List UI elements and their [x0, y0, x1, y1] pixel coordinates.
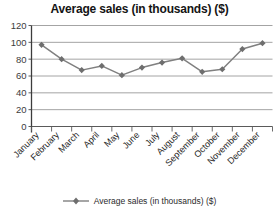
x-axis [32, 127, 273, 132]
x-tick-labels: JanuaryFebruaryMarchAprilMayJuneJulyAugu… [11, 129, 262, 168]
data-point-july [159, 59, 165, 65]
y-tick-label-80: 80 [16, 54, 27, 65]
data-point-may [119, 72, 125, 78]
y-tick-labels: 020406080100120 [11, 20, 27, 132]
line-chart-plot: 020406080100120 JanuaryFebruaryMarchApri… [0, 0, 279, 217]
data-point-december [259, 40, 265, 46]
y-tick-label-40: 40 [16, 87, 27, 98]
x-tick-label-june: June [120, 130, 141, 151]
y-tick-label-60: 60 [16, 70, 27, 81]
chart-legend: Average sales (in thousands) ($) [0, 196, 279, 206]
y-tick-label-20: 20 [16, 104, 27, 115]
data-point-march [79, 67, 85, 73]
x-tick-label-may: May [102, 129, 121, 148]
legend-label: Average sales (in thousands) ($) [94, 196, 217, 206]
x-tick-label-april: April [81, 130, 101, 150]
y-tick-label-100: 100 [11, 37, 27, 48]
data-point-june [139, 64, 145, 70]
gridlines [29, 26, 273, 127]
y-tick-label-0: 0 [21, 121, 26, 132]
x-tick-label-march: March [56, 130, 81, 155]
diamond-marker-icon [63, 196, 89, 206]
y-tick-label-120: 120 [11, 20, 27, 31]
chart-container: Average sales (in thousands) ($) 0204060… [0, 0, 279, 217]
data-point-april [99, 63, 105, 69]
